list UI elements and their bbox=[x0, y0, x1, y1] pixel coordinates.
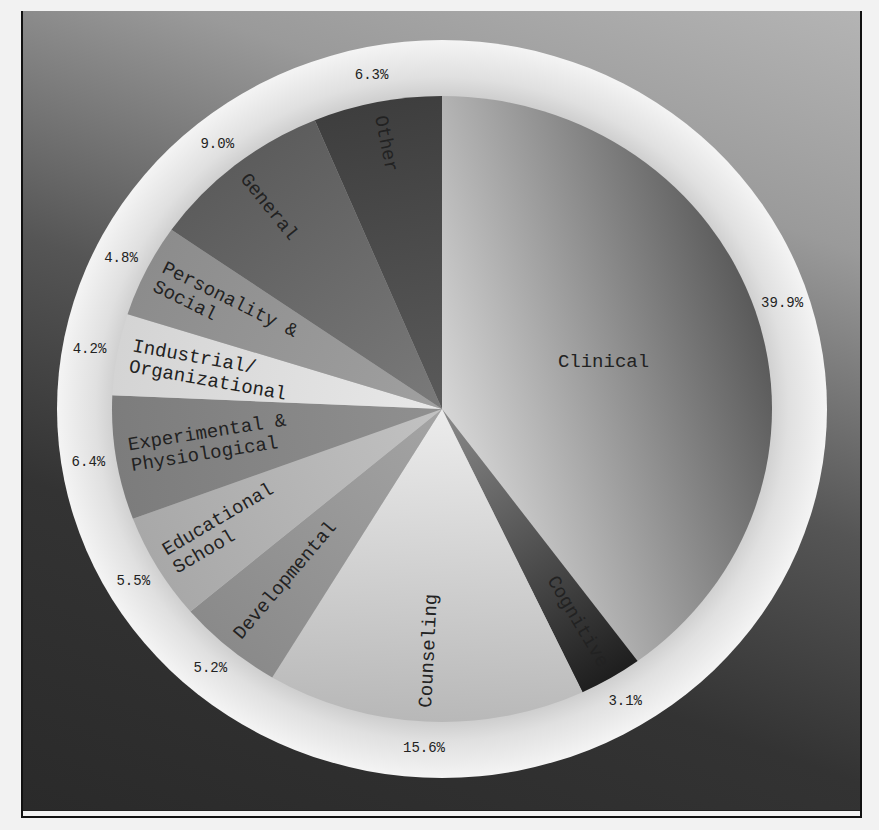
slice-percent-label: 4.8% bbox=[104, 250, 138, 266]
slice-percent-label: 15.6% bbox=[403, 740, 446, 756]
plot-area: ClinicalCognitiveCounselingDevelopmental… bbox=[23, 11, 860, 811]
slice-percent-label: 5.2% bbox=[194, 660, 228, 676]
slice-label: Clinical bbox=[558, 351, 649, 373]
pie-chart: ClinicalCognitiveCounselingDevelopmental… bbox=[23, 11, 860, 810]
slice-percent-label: 39.9% bbox=[761, 295, 804, 311]
slice-percent-label: 9.0% bbox=[200, 136, 234, 152]
chart-frame: ClinicalCognitiveCounselingDevelopmental… bbox=[21, 11, 862, 818]
slice-percent-label: 6.3% bbox=[355, 67, 389, 83]
slice-percent-label: 5.5% bbox=[116, 573, 150, 589]
pie-slices bbox=[112, 96, 772, 722]
slice-percent-label: 3.1% bbox=[608, 693, 642, 709]
slice-percent-label: 6.4% bbox=[72, 454, 106, 470]
slice-percent-label: 4.2% bbox=[73, 341, 107, 357]
